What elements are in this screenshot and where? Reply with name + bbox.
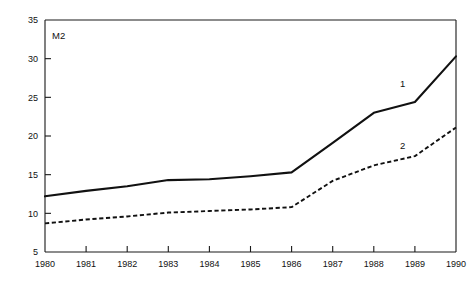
x-tick-label: 1987 (323, 259, 343, 269)
x-tick-label: 1984 (199, 259, 219, 269)
y-tick-label: 5 (33, 247, 38, 257)
y-axis-tick-labels: 5101520253035 (28, 15, 38, 257)
x-tick-label: 1989 (405, 259, 425, 269)
x-axis-ticks (86, 246, 415, 252)
y-tick-label: 15 (28, 170, 38, 180)
x-tick-label: 1990 (446, 259, 466, 269)
y-tick-label: 20 (28, 131, 38, 141)
series-label-1: 1 (400, 78, 405, 89)
series-annotation-group: 12 (400, 78, 405, 151)
series-label-2: 2 (400, 140, 405, 151)
x-axis-tick-labels: 1980198119821983198419851986198719881989… (35, 259, 466, 269)
chart-container: 5101520253035 19801981198219831984198519… (0, 0, 475, 281)
y-tick-label: 25 (28, 93, 38, 103)
x-tick-label: 1986 (282, 259, 302, 269)
x-tick-label: 1985 (240, 259, 260, 269)
y-axis-ticks (45, 59, 51, 214)
y-tick-label: 35 (28, 15, 38, 25)
x-tick-label: 1988 (364, 259, 384, 269)
y-axis-title: M2 (52, 30, 65, 41)
x-tick-label: 1980 (35, 259, 55, 269)
chart-series-group (45, 56, 456, 223)
line-chart: 5101520253035 19801981198219831984198519… (0, 0, 475, 281)
x-tick-label: 1982 (117, 259, 137, 269)
x-tick-label: 1981 (76, 259, 96, 269)
series-line-1 (45, 56, 456, 196)
y-tick-label: 30 (28, 54, 38, 64)
x-tick-label: 1983 (158, 259, 178, 269)
y-tick-label: 10 (28, 209, 38, 219)
